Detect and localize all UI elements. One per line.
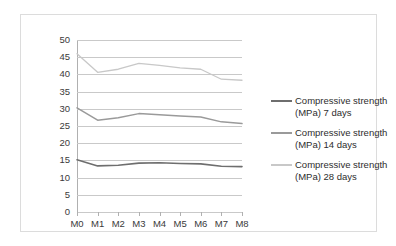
legend-swatch-14-days	[271, 132, 292, 134]
x-tick-mark-M1	[98, 212, 99, 216]
y-tick-label-10: 10	[59, 173, 70, 183]
x-tick-mark-M5	[180, 212, 181, 216]
y-tick-label-45: 45	[59, 52, 70, 62]
legend-label-28-days: Compressive strength (MPa) 28 days	[295, 159, 387, 183]
x-tick-mark-M4	[160, 212, 161, 216]
y-tick-label-15: 15	[59, 156, 70, 166]
x-tick-mark-M2	[118, 212, 119, 216]
y-tick-label-50: 50	[59, 35, 70, 45]
x-tick-label-M3: M3	[132, 219, 145, 229]
x-tick-mark-M7	[221, 212, 222, 216]
chart-legend: Compressive strength (MPa) 7 days Compre…	[271, 95, 396, 191]
x-tick-mark-M3	[139, 212, 140, 216]
series-line-1	[77, 108, 242, 124]
legend-label-28-days-line1: Compressive strength	[295, 159, 387, 170]
series-line-0	[77, 160, 242, 167]
y-tick-label-35: 35	[59, 87, 70, 97]
y-tick-label-5: 5	[65, 190, 70, 200]
x-tick-mark-M8	[242, 212, 243, 216]
y-tick-label-40: 40	[59, 70, 70, 80]
y-tick-label-20: 20	[59, 138, 70, 148]
x-tick-label-M6: M6	[194, 219, 207, 229]
series-lines	[77, 40, 242, 212]
legend-item-7-days[interactable]: Compressive strength (MPa) 7 days	[271, 95, 396, 119]
y-tick-label-25: 25	[59, 121, 70, 131]
plot-area: 50454035302520151050 M0M1M2M3M4M5M6M7M8	[77, 40, 242, 212]
x-tick-label-M8: M8	[235, 219, 248, 229]
legend-swatch-28-days	[271, 164, 292, 166]
x-tick-mark-M6	[201, 212, 202, 216]
legend-swatch-7-days	[271, 100, 292, 102]
x-tick-label-M5: M5	[174, 219, 187, 229]
legend-label-28-days-line2: (MPa) 28 days	[295, 171, 357, 182]
x-tick-label-M4: M4	[153, 219, 166, 229]
legend-label-7-days-line1: Compressive strength	[295, 95, 387, 106]
x-tick-label-M0: M0	[70, 219, 83, 229]
legend-label-14-days: Compressive strength (MPa) 14 days	[295, 127, 387, 151]
y-tick-label-0: 0	[65, 207, 70, 217]
chart-container: 50454035302520151050 M0M1M2M3M4M5M6M7M8 …	[20, 14, 377, 232]
y-tick-label-30: 30	[59, 104, 70, 114]
legend-label-7-days: Compressive strength (MPa) 7 days	[295, 95, 387, 119]
x-tick-label-M7: M7	[215, 219, 228, 229]
x-tick-label-M1: M1	[91, 219, 104, 229]
legend-item-14-days[interactable]: Compressive strength (MPa) 14 days	[271, 127, 396, 151]
x-tick-mark-M0	[77, 212, 78, 216]
legend-label-14-days-line2: (MPa) 14 days	[295, 139, 357, 150]
legend-item-28-days[interactable]: Compressive strength (MPa) 28 days	[271, 159, 396, 183]
x-tick-label-M2: M2	[112, 219, 125, 229]
legend-label-14-days-line1: Compressive strength	[295, 127, 387, 138]
legend-label-7-days-line2: (MPa) 7 days	[295, 107, 352, 118]
series-line-2	[77, 54, 242, 80]
